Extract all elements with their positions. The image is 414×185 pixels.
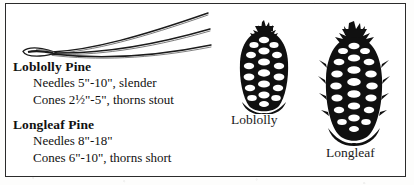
cone-caption-loblolly: Loblolly <box>231 112 278 128</box>
species-detail-cones-loblolly: Cones 2½"-5", thorns stout <box>33 92 213 109</box>
species-detail-cones-longleaf: Cones 6"-10", thorns short <box>33 150 213 167</box>
species-description-list: Loblolly Pine Needles 5"-10", slender Co… <box>13 59 213 175</box>
pine-needle-fascicle-icon <box>12 6 212 62</box>
species-heading-longleaf: Longleaf Pine <box>13 117 213 133</box>
species-detail-needles-loblolly: Needles 5"-10", slender <box>33 75 213 92</box>
cone-caption-longleaf: Longleaf <box>326 145 375 161</box>
pine-identification-figure: Loblolly Pine Needles 5"-10", slender Co… <box>0 0 414 185</box>
species-detail-needles-longleaf: Needles 8"-18" <box>33 133 213 150</box>
species-heading-loblolly: Loblolly Pine <box>13 59 213 75</box>
pine-cone-illustration-loblolly <box>233 18 295 114</box>
figure-frame: Loblolly Pine Needles 5"-10", slender Co… <box>5 3 406 177</box>
cone-illustration-group: Loblolly <box>213 4 412 178</box>
species-block-longleaf: Longleaf Pine Needles 8"-18" Cones 6"-10… <box>13 117 213 166</box>
pine-cone-illustration-longleaf <box>318 20 390 146</box>
species-block-loblolly: Loblolly Pine Needles 5"-10", slender Co… <box>13 59 213 108</box>
